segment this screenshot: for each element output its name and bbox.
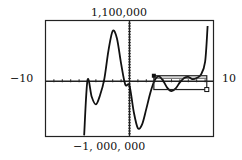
box-corner-marker — [205, 88, 209, 92]
graph-window — [0, 0, 242, 160]
box-corner-marker — [152, 74, 156, 78]
